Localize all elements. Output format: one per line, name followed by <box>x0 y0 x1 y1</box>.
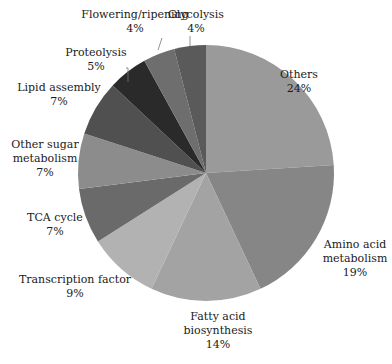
label-lipid-assembly: Lipid assembly7% <box>17 81 101 108</box>
label-other-sugar-metabolism: Other sugarmetabolism7% <box>11 138 79 179</box>
label-transcription-factor: Transcription factor9% <box>19 273 132 300</box>
pie-chart: Others24%Amino acidmetabolism19%Fatty ac… <box>0 0 392 364</box>
label-proteolysis: Proteolysis5% <box>65 46 127 73</box>
leader-line-flowering-ripening <box>158 38 162 50</box>
label-glycolysis: Glycolysis4% <box>168 8 224 35</box>
slice-others <box>206 45 334 173</box>
label-tca-cycle: TCA cycle7% <box>27 211 83 238</box>
label-fatty-acid-biosynthesis: Fatty acidbiosynthesis14% <box>184 310 253 351</box>
label-amino-acid-metabolism: Amino acidmetabolism19% <box>323 238 388 279</box>
